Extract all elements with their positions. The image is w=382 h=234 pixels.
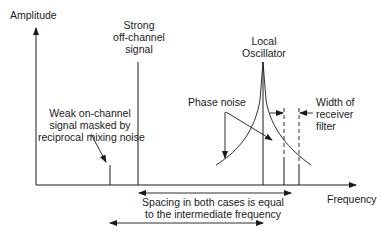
spacing-label: Spacing in both cases is equal to the in… [128,196,298,220]
weak-signal-label: Weak on-channel signal masked by recipro… [38,107,142,143]
local-oscillator-label: Local Oscillator [235,35,293,59]
phase-noise-right-curve [263,62,311,165]
phase-noise-label: Phase noise [188,96,246,108]
phase-noise-left-curve [216,62,263,165]
strong-signal-label: Strong off-channel signal [108,19,170,55]
phase-noise-pointer-right [226,112,272,140]
y-axis-label: Amplitude [10,9,57,21]
x-axis-label: Frequency [327,193,377,205]
filter-width-label: Width of receiver filter [316,96,355,132]
